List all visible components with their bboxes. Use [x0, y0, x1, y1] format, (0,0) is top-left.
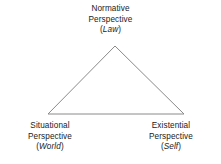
situational-line-1: Situational — [0, 121, 100, 132]
normative-line-1: Normative — [0, 4, 221, 15]
situational-term-line: (World) — [0, 142, 100, 153]
situational-paren-close: ) — [61, 142, 64, 151]
normative-paren-close: ) — [118, 25, 121, 34]
normative-line-2: Perspective — [0, 15, 221, 26]
triangle-outline — [48, 46, 184, 114]
normative-term-line: (Law) — [0, 25, 221, 36]
existential-line-2: Perspective — [121, 132, 221, 143]
existential-term: Self — [164, 142, 179, 151]
vertex-label-situational: Situational Perspective (World) — [0, 121, 100, 153]
vertex-label-existential: Existential Perspective (Self) — [121, 121, 221, 153]
existential-term-line: (Self) — [121, 142, 221, 153]
normative-term: Law — [103, 25, 118, 34]
existential-line-1: Existential — [121, 121, 221, 132]
situational-term: World — [39, 142, 61, 151]
existential-paren-close: ) — [178, 142, 181, 151]
situational-line-2: Perspective — [0, 132, 100, 143]
triangle-diagram: Normative Perspective (Law) Situational … — [0, 0, 221, 164]
vertex-label-normative: Normative Perspective (Law) — [0, 4, 221, 36]
